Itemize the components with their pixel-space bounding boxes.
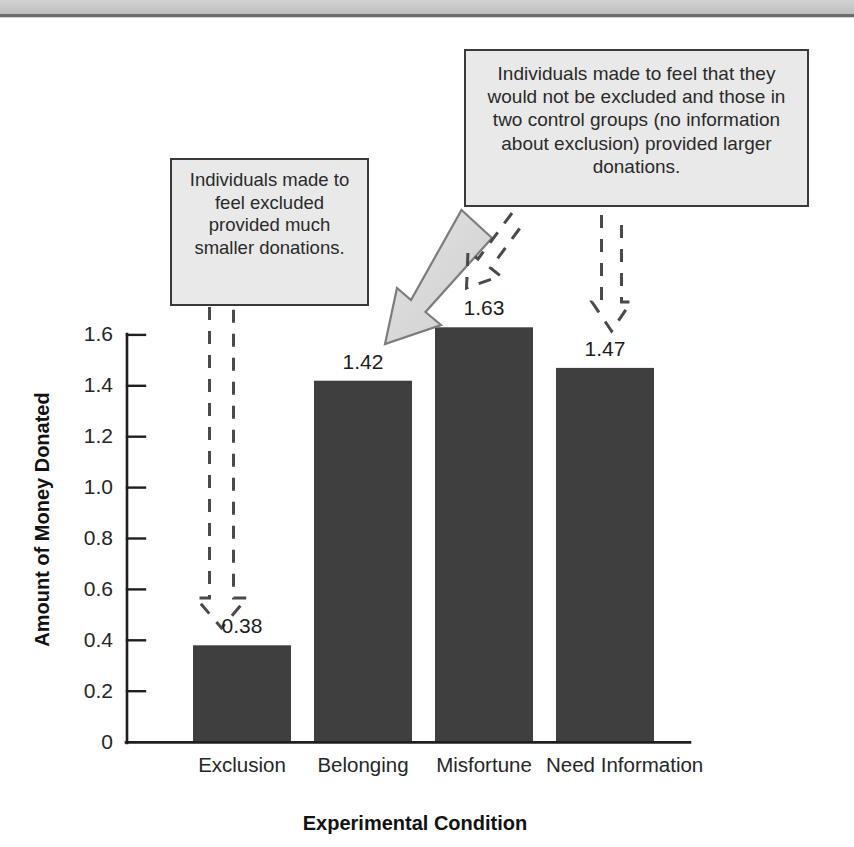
- bars-group: [193, 327, 654, 742]
- x-category-label-belonging: Belonging: [293, 752, 433, 777]
- x-category-label-misfortune: Misfortune: [414, 752, 554, 777]
- dashed-arrow-to-exclusion-icon: [196, 307, 247, 628]
- callout-box-right: Individuals made to feel that they would…: [464, 49, 809, 207]
- bar-value-exclusion: 0.38: [193, 614, 291, 638]
- bar-misfortune: [435, 327, 533, 742]
- y-tick-label-1.4: 1.4: [58, 373, 113, 397]
- bar-belonging: [314, 381, 412, 742]
- figure-page: 1.6 1.4 1.2 1.0 0.8 0.6 0.4 0.2 0 0.38 1…: [0, 0, 854, 847]
- dashed-arrow-to-need-information-icon: [592, 215, 631, 331]
- bar-value-misfortune: 1.63: [435, 296, 533, 320]
- solid-gray-arrow-to-belonging-icon: [385, 210, 492, 344]
- y-tick-label-0.2: 0.2: [58, 679, 113, 703]
- y-ticks-group: [127, 335, 145, 691]
- y-tick-label-1.6: 1.6: [58, 322, 113, 346]
- callout-box-left: Individuals made to feel excluded provid…: [170, 158, 369, 306]
- y-tick-label-1.2: 1.2: [58, 424, 113, 448]
- x-category-label-need-information: Need Information: [546, 752, 664, 777]
- x-axis-title: Experimental Condition: [285, 812, 545, 835]
- bar-exclusion: [193, 645, 291, 742]
- y-tick-label-0.4: 0.4: [58, 628, 113, 652]
- y-tick-label-0: 0: [58, 730, 113, 754]
- y-tick-label-0.6: 0.6: [58, 577, 113, 601]
- y-tick-label-0.8: 0.8: [58, 526, 113, 550]
- y-tick-label-1.0: 1.0: [58, 475, 113, 499]
- bar-value-need-information: 1.47: [556, 337, 654, 361]
- bar-value-belonging: 1.42: [314, 350, 412, 374]
- y-axis-title: Amount of Money Donated: [31, 390, 54, 650]
- bar-need-information: [556, 368, 654, 742]
- x-category-label-exclusion: Exclusion: [172, 752, 312, 777]
